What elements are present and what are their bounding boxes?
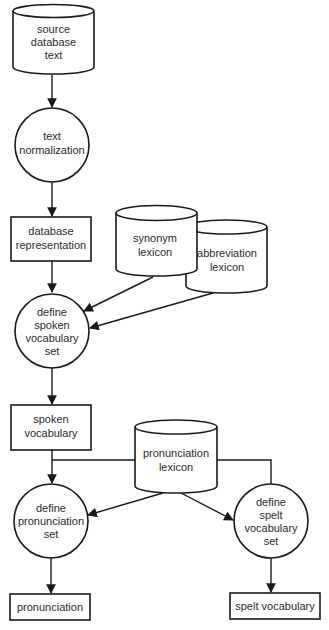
node-label-line: synonym <box>133 232 177 244</box>
node-label-line: lexicon <box>138 246 172 258</box>
node-label-line: pronunciation <box>143 447 209 459</box>
cylinder-top <box>135 420 217 434</box>
edge-pron-lex-to-define-spelt <box>181 493 233 520</box>
cylinder-top <box>186 220 267 234</box>
node-define-pronunciation-set: define pronunciation set <box>14 484 88 558</box>
node-label-line: set <box>45 345 60 357</box>
node-label-line: source <box>37 23 70 35</box>
node-label-line: abbreviation <box>197 247 257 259</box>
node-label-line: database <box>28 225 73 237</box>
node-label-line: text <box>45 49 63 61</box>
node-label-line: representation <box>16 239 86 251</box>
node-label-line: vocabulary <box>24 427 78 439</box>
node-abbreviation-lexicon: abbreviation lexicon <box>186 220 267 293</box>
node-spelt-vocabulary: spelt vocabulary <box>230 593 320 619</box>
edge-synonym-to-define-spoken <box>84 277 153 311</box>
node-label-line: vocabulary <box>25 332 79 344</box>
node-label-line: normalization <box>19 144 84 156</box>
node-label-line: spelt <box>259 509 282 521</box>
cylinder-body <box>135 427 217 493</box>
node-label-line: spelt vocabulary <box>235 600 315 612</box>
node-spoken-vocabulary: spoken vocabulary <box>11 405 91 450</box>
node-label-line: lexicon <box>159 461 193 473</box>
data-flow-diagram: source database text text normalization … <box>0 0 329 630</box>
node-database-representation: database representation <box>11 217 91 261</box>
node-label-line: text <box>43 130 61 142</box>
node-label-line: define <box>37 306 67 318</box>
node-synonym-lexicon: synonym lexicon <box>116 206 197 277</box>
node-define-spoken-vocabulary-set: define spoken vocabulary set <box>15 294 89 368</box>
node-label-line: define <box>256 496 286 508</box>
node-pronunciation: pronunciation <box>10 594 90 620</box>
edge-pron-row-to-define-spelt <box>217 460 271 484</box>
node-label-line: set <box>264 535 279 547</box>
node-pronunciation-lexicon: pronunciation lexicon <box>135 420 217 493</box>
cylinder-top <box>116 206 197 221</box>
node-label-line: vocabulary <box>244 522 298 534</box>
node-label-line: set <box>44 528 59 540</box>
node-define-spelt-vocabulary-set: define spelt vocabulary set <box>234 484 308 558</box>
edge-pron-lex-to-define-pron <box>88 493 163 515</box>
node-label-line: spoken <box>33 413 68 425</box>
node-label-line: pronunciation <box>18 515 84 527</box>
cylinder-body <box>186 227 267 293</box>
cylinder-body <box>116 213 197 276</box>
node-label-line: lexicon <box>210 261 244 273</box>
cylinder-top <box>13 5 94 18</box>
node-label-line: pronunciation <box>17 601 83 613</box>
node-source-database: source database text <box>13 5 94 75</box>
node-text-normalization: text normalization <box>15 108 89 182</box>
node-label-line: define <box>36 502 66 514</box>
node-label-line: database <box>31 36 76 48</box>
node-label-line: spoken <box>34 319 69 331</box>
